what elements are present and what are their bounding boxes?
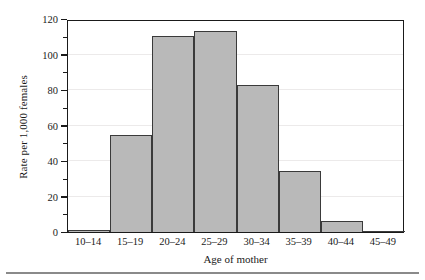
y-tick-label: 20: [48, 193, 59, 203]
y-tick-label: 80: [48, 86, 59, 96]
y-tick-label: 40: [48, 157, 59, 167]
y-tick-label: 0: [53, 228, 58, 238]
y-tick-label: 120: [42, 15, 58, 25]
plot-inner: [68, 21, 403, 232]
x-tick-label: 45–49: [362, 235, 404, 249]
bar: [321, 221, 363, 232]
x-tick-label: 20–24: [151, 235, 193, 249]
x-tick-label: 15–19: [109, 235, 151, 249]
bar: [152, 36, 194, 232]
x-tick-label: 40–44: [320, 235, 362, 249]
bar: [279, 171, 321, 232]
bar: [363, 231, 405, 232]
bar: [68, 230, 110, 232]
y-tick-label: 60: [48, 122, 59, 132]
x-tick-label: 10–14: [67, 235, 109, 249]
y-axis-ticks: 020406080100120: [0, 20, 67, 233]
y-tick-label: 100: [42, 51, 58, 61]
x-axis-tick-labels: 10–1415–1920–2425–2930–3435–3940–4445–49: [67, 235, 404, 251]
x-tick-label: 30–34: [236, 235, 278, 249]
bar: [194, 31, 236, 232]
x-axis-title: Age of mother: [67, 252, 404, 266]
histogram-figure: Rate per 1,000 females 020406080100120 1…: [0, 0, 425, 280]
bottom-divider: [6, 272, 419, 274]
plot-area: [67, 20, 404, 233]
x-tick-label: 35–39: [278, 235, 320, 249]
bar: [237, 85, 279, 232]
bar: [110, 135, 152, 232]
x-tick-label: 25–29: [193, 235, 235, 249]
